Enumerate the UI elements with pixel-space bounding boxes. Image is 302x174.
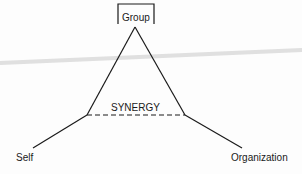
self-label: Self — [16, 153, 33, 163]
scan-smear — [0, 50, 302, 63]
self-leg-line — [33, 115, 87, 148]
diagram-lines — [0, 0, 302, 174]
organization-label: Organization — [231, 153, 288, 163]
synergy-diagram: Group SYNERGY Self Organization — [0, 0, 302, 174]
synergy-label: SYNERGY — [111, 103, 160, 113]
organization-leg-line — [185, 115, 242, 148]
group-label: Group — [122, 13, 150, 23]
